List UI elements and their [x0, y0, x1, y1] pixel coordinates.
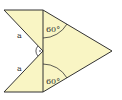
right-angle-dot — [39, 50, 41, 52]
side-label-upper: a — [17, 31, 22, 40]
side-label-lower: a — [17, 64, 22, 73]
angle-label-upper: 60° — [46, 25, 60, 34]
right-angle-arc — [36, 46, 38, 56]
angle-label-lower: 60° — [46, 77, 60, 86]
figure-svg: a a 60° 60° — [0, 0, 122, 100]
geometry-diagram: a a 60° 60° — [0, 0, 122, 100]
